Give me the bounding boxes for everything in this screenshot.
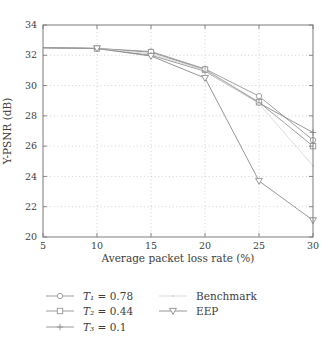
legend-label: T₂ = 0.44	[83, 305, 133, 317]
line-chart: 510152025302022242628303234 Average pack…	[0, 0, 334, 280]
series-line	[43, 48, 313, 140]
series-marker-dot	[172, 295, 174, 297]
legend-column: BenchmarkEEP	[158, 288, 257, 319]
y-tick-label: 32	[25, 49, 37, 60]
series-marker-circle	[256, 93, 261, 98]
series-marker-dot	[258, 103, 260, 105]
legend-label: Benchmark	[196, 290, 257, 302]
series-t-0-78	[43, 46, 316, 143]
series-benchmark	[43, 47, 314, 167]
x-tick-label: 15	[145, 240, 157, 251]
x-tick-label: 10	[91, 240, 103, 251]
series-eep	[43, 46, 316, 224]
legend-item: T₂ = 0.44	[45, 304, 133, 320]
x-tick-label: 25	[253, 240, 265, 251]
grid-layer	[43, 25, 313, 237]
y-tick-label: 20	[25, 231, 37, 242]
legend-item: T₁ = 0.78	[45, 288, 133, 304]
x-tick-label: 5	[40, 240, 46, 251]
legend-marker-dot	[158, 291, 188, 301]
series-marker-triangle-down	[202, 75, 209, 81]
legend-column: T₁ = 0.78T₂ = 0.44T₃ = 0.1	[45, 288, 133, 335]
y-tick-label: 24	[25, 171, 37, 182]
axes-layer	[43, 25, 313, 237]
legend-label: T₃ = 0.1	[83, 321, 126, 333]
y-axis-title: Y-PSNR (dB)	[1, 98, 13, 166]
legend-item: EEP	[158, 304, 257, 320]
x-axis-title: Average packet loss rate (%)	[101, 252, 255, 264]
series-marker-dot	[204, 69, 206, 71]
series-marker-square	[57, 309, 62, 314]
legend-marker-triangle-down	[158, 306, 188, 316]
tick-label-layer: 510152025302022242628303234	[25, 19, 319, 251]
y-tick-label: 28	[25, 110, 37, 121]
figure: 510152025302022242628303234 Average pack…	[0, 0, 334, 345]
y-tick-label: 22	[25, 201, 37, 212]
legend-item: Benchmark	[158, 288, 257, 304]
series-layer	[43, 45, 316, 223]
y-tick-label: 30	[25, 80, 37, 91]
y-tick-label: 26	[25, 140, 37, 151]
legend-item: T₃ = 0.1	[45, 319, 133, 335]
legend-marker-plus	[45, 322, 75, 332]
x-tick-label: 30	[307, 240, 319, 251]
legend-label: T₁ = 0.78	[83, 290, 133, 302]
series-marker-triangle-down	[256, 178, 263, 184]
legend-marker-circle	[45, 291, 75, 301]
legend-marker-square	[45, 306, 75, 316]
series-t-0-44	[43, 46, 316, 149]
legend-label: EEP	[196, 305, 218, 317]
y-tick-label: 34	[25, 19, 37, 30]
series-line	[43, 48, 313, 221]
series-marker-circle	[57, 293, 62, 298]
axis-box	[43, 25, 313, 237]
x-tick-label: 20	[199, 240, 211, 251]
